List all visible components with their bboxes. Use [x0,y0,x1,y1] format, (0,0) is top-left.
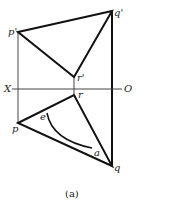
front-view-triangle [18,11,112,77]
label-o: O [124,84,132,94]
label-r-prime: r' [77,73,85,83]
label-p-prime: p' [8,27,17,37]
label-x: X [4,84,11,94]
projection-diagram [0,0,171,201]
label-r: r [78,90,83,100]
label-p: p [12,124,18,134]
label-q-prime: q' [114,8,123,18]
label-e: e [40,112,46,122]
figure-caption: (a) [65,189,79,199]
rotation-arc [47,113,92,148]
label-q: q [114,163,120,173]
label-a: a [94,148,100,158]
